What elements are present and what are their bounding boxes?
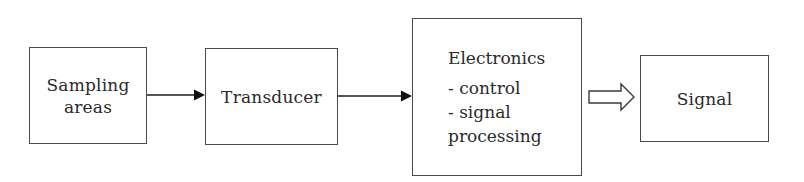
block-label-line: Signal: [677, 88, 733, 110]
hollow-arrow-electronics-to-signal: [589, 84, 634, 110]
block-item: - control: [448, 76, 520, 100]
block-electronics: Electronics - control - signal processin…: [412, 18, 582, 176]
block-item: - signal: [448, 100, 511, 124]
block-title: Electronics: [448, 47, 545, 69]
block-transducer: Transducer: [205, 48, 338, 145]
arrow-transducer-to-electronics: [338, 91, 412, 102]
block-signal: Signal: [640, 55, 769, 142]
block-sampling-areas: Sampling areas: [29, 47, 147, 144]
arrow-sampling-to-transducer: [147, 90, 205, 101]
block-label-line: areas: [64, 96, 112, 118]
block-item: processing: [448, 124, 542, 148]
block-diagram: Sampling areas Transducer Electronics - …: [0, 0, 804, 182]
block-label-line: Sampling: [46, 74, 129, 96]
block-label-line: Transducer: [221, 86, 322, 108]
